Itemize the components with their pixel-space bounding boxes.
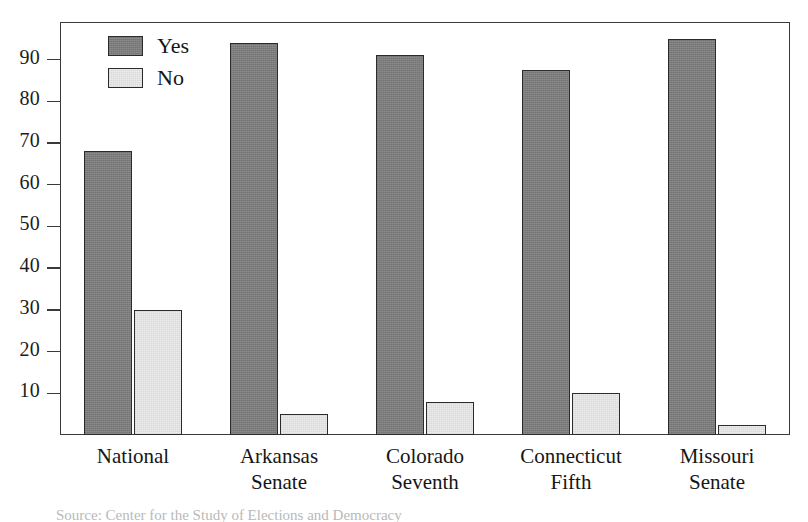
legend-swatch-no-icon: [108, 68, 143, 88]
legend-entry-no: No: [108, 62, 189, 94]
bar-group: [376, 22, 474, 435]
x-axis-label-line2: Senate: [206, 469, 352, 495]
source-caption: Source: Center for the Study of Election…: [56, 506, 756, 522]
bar-no: [572, 393, 620, 435]
x-axis-label-line2: Fifth: [498, 469, 644, 495]
y-axis-tick-mark: [47, 59, 60, 61]
x-axis-label-line1: Missouri: [680, 444, 755, 468]
bar-yes: [668, 39, 716, 435]
y-axis-tick-label: 10: [20, 380, 40, 400]
legend-swatch-yes-icon: [108, 36, 143, 56]
y-axis-tick-mark: [47, 267, 60, 269]
legend-label-yes: Yes: [157, 35, 189, 57]
x-axis-label-line2: Seventh: [352, 469, 498, 495]
x-axis-label-line1: Colorado: [386, 444, 464, 468]
bar-yes: [84, 151, 132, 435]
x-axis-label-missouri-senate: MissouriSenate: [644, 443, 790, 495]
legend-entry-yes: Yes: [108, 30, 189, 62]
bar-no: [426, 402, 474, 435]
y-axis-tick-mark: [47, 226, 60, 228]
x-axis-label-colorado-seventh: ColoradoSeventh: [352, 443, 498, 495]
y-axis-tick-label: 40: [20, 255, 40, 275]
y-axis-tick-mark: [47, 184, 60, 186]
y-axis-tick-mark: [47, 393, 60, 395]
bar-yes: [376, 55, 424, 435]
y-axis-tick-mark: [47, 351, 60, 353]
x-axis-label-national: National: [60, 443, 206, 469]
y-axis-tick-label: 60: [20, 172, 40, 192]
y-axis-tick-mark: [47, 101, 60, 103]
bar-no: [134, 310, 182, 435]
y-axis-tick-label: 90: [20, 47, 40, 67]
x-axis-label-line1: Arkansas: [240, 444, 318, 468]
x-axis-label-line1: National: [97, 444, 169, 468]
y-axis-tick-label: 20: [20, 339, 40, 359]
bar-group: [522, 22, 620, 435]
x-axis-label-line1: Connecticut: [520, 444, 621, 468]
x-axis-label-connecticut-fifth: ConnecticutFifth: [498, 443, 644, 495]
bar-group: [668, 22, 766, 435]
bar-no: [718, 425, 766, 435]
bar-yes: [522, 70, 570, 435]
y-axis-tick-mark: [47, 309, 60, 311]
x-axis-category-labels: NationalArkansasSenateColoradoSeventhCon…: [60, 443, 790, 505]
x-axis-label-arkansas-senate: ArkansasSenate: [206, 443, 352, 495]
legend-label-no: No: [157, 67, 184, 89]
x-axis-label-line2: Senate: [644, 469, 790, 495]
y-axis-tick-mark: [47, 142, 60, 144]
bar-yes: [230, 43, 278, 435]
y-axis-tick-label: 80: [20, 88, 40, 108]
bar-no: [280, 414, 328, 435]
y-axis-tick-label: 30: [20, 297, 40, 317]
chart-legend: Yes No: [108, 30, 189, 94]
bar-group: [230, 22, 328, 435]
y-axis: 102030405060708090: [0, 0, 60, 457]
bar-chart-figure: 102030405060708090 Yes No NationalArkans…: [0, 0, 808, 522]
y-axis-tick-label: 50: [20, 213, 40, 233]
y-axis-tick-label: 70: [20, 130, 40, 150]
